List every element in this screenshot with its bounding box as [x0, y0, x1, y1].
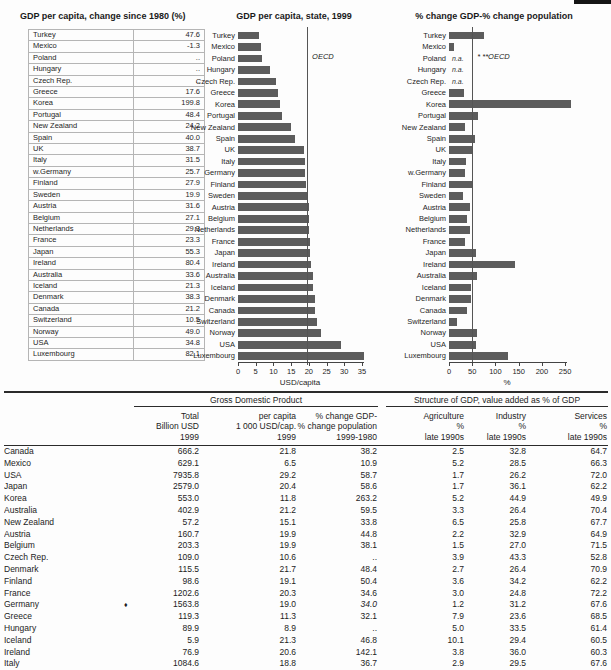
country-label: Austria — [178, 202, 235, 213]
axis-tick — [565, 362, 566, 366]
value-cell: 52.8 — [527, 552, 608, 564]
axis-tick — [273, 362, 274, 366]
table-row: Iceland5.921.346.810.129.460.5 — [4, 635, 608, 647]
value-cell: 68.5 — [527, 611, 608, 623]
country-label: Czech Rep. — [178, 76, 235, 87]
bar — [238, 100, 280, 108]
value-cell: 70.9 — [527, 564, 608, 576]
middle-chart-title: GDP per capita, state, 1999 — [214, 11, 374, 21]
country-label: Austria — [386, 202, 446, 213]
country-cell: Switzerland — [29, 315, 134, 326]
axis-tick — [519, 362, 520, 366]
value-cell: 25.8 — [465, 517, 527, 529]
column-header: % change GDP- % change population 1999-1… — [297, 409, 378, 446]
axis-tick — [449, 362, 450, 366]
value-cell: 72.2 — [527, 588, 608, 600]
country-cell: USA — [4, 470, 134, 482]
country-label: Poland — [386, 53, 446, 64]
value-cell: 23.6 — [465, 611, 527, 623]
value-cell: 263.2 — [297, 493, 378, 505]
value-cell: 44.9 — [465, 493, 527, 505]
bar — [449, 135, 475, 143]
axis-tick — [362, 362, 363, 366]
value-cell: 36.1 — [465, 481, 527, 493]
column-header: Industry % late 1990s — [465, 409, 527, 446]
value-cell: 1.7 — [378, 470, 465, 482]
value-cell: 1202.6 — [134, 588, 200, 600]
axis-tick — [309, 362, 310, 366]
country-cell: Finland — [4, 576, 134, 588]
country-cell: Japan — [4, 481, 134, 493]
value-cell: 27.0 — [465, 540, 527, 552]
country-cell: Czech Rep. — [4, 552, 134, 564]
bar — [238, 238, 310, 246]
country-label: Korea — [178, 99, 235, 110]
country-label: Finland — [386, 179, 446, 190]
value-cell: 36.7 — [297, 658, 378, 670]
bar — [449, 215, 467, 223]
value-cell: 33.8 — [297, 517, 378, 529]
country-label: Korea — [386, 99, 446, 110]
country-cell: Finland — [29, 178, 134, 189]
value-cell: 67.6 — [527, 658, 608, 670]
country-label: Norway — [386, 327, 446, 338]
country-cell: Belgium — [29, 212, 134, 223]
value-cell: 3.0 — [378, 588, 465, 600]
value-cell: 1.5 — [378, 540, 465, 552]
country-cell: Luxembourg — [29, 349, 134, 360]
country-label: w.Germany — [386, 167, 446, 178]
bar — [449, 226, 470, 234]
x-axis-title: USD/capita — [238, 378, 362, 387]
value-cell: 11.8 — [200, 493, 297, 505]
country-cell: Iceland — [4, 635, 134, 647]
country-label: Ireland — [178, 259, 235, 270]
country-label: Netherlands — [178, 224, 235, 235]
bar — [449, 318, 457, 326]
table-row: Austria160.719.944.82.232.964.9 — [4, 529, 608, 541]
country-label: UK — [178, 144, 235, 155]
country-label: Turkey — [386, 30, 446, 41]
country-label: Canada — [386, 305, 446, 316]
column-header: Total Billion USD 1999 — [134, 409, 200, 446]
column-header — [4, 409, 134, 446]
country-label: Portugal — [178, 110, 235, 121]
country-cell: Greece — [29, 87, 134, 98]
country-cell: Germany♦ — [4, 599, 134, 611]
country-label: Hungary — [178, 64, 235, 75]
bar — [449, 295, 471, 303]
country-label: New Zealand — [386, 122, 446, 133]
country-cell: Korea — [29, 98, 134, 109]
table-row: Belgium203.319.938.11.527.071.5 — [4, 540, 608, 552]
value-cell: .. — [297, 623, 378, 635]
country-cell: Hungary — [29, 64, 134, 75]
table-row: New Zealand57.215.133.86.525.867.7 — [4, 517, 608, 529]
axis-tick — [256, 362, 257, 366]
country-label: Greece — [386, 87, 446, 98]
value-cell: 18.8 — [200, 658, 297, 670]
group-header-gdp: Gross Domestic Product — [134, 392, 378, 409]
table-row: Italy1084.618.836.72.929.567.6 — [4, 658, 608, 670]
country-cell: Australia — [29, 269, 134, 280]
country-cell: Denmark — [4, 564, 134, 576]
country-cell: Ireland — [29, 258, 134, 269]
bar — [238, 307, 315, 315]
country-label: Luxembourg — [386, 350, 446, 361]
value-cell: 46.8 — [297, 635, 378, 647]
value-cell: 3.3 — [378, 505, 465, 517]
country-cell: w.Germany — [29, 166, 134, 177]
value-cell: 2.2 — [378, 529, 465, 541]
value-cell: 5.2 — [378, 458, 465, 470]
country-label: Japan — [178, 247, 235, 258]
value-cell: 33.5 — [465, 623, 527, 635]
axis-tick — [327, 362, 328, 366]
bar — [449, 169, 465, 177]
value-cell: 60.5 — [527, 635, 608, 647]
value-cell: 32.1 — [297, 611, 378, 623]
country-cell: Italy — [4, 658, 134, 670]
country-label: Denmark — [178, 293, 235, 304]
value-cell: 5.0 — [378, 623, 465, 635]
value-cell: 43.3 — [465, 552, 527, 564]
value-cell: 203.3 — [134, 540, 200, 552]
country-cell: New Zealand — [29, 121, 134, 132]
country-label: Iceland — [386, 282, 446, 293]
